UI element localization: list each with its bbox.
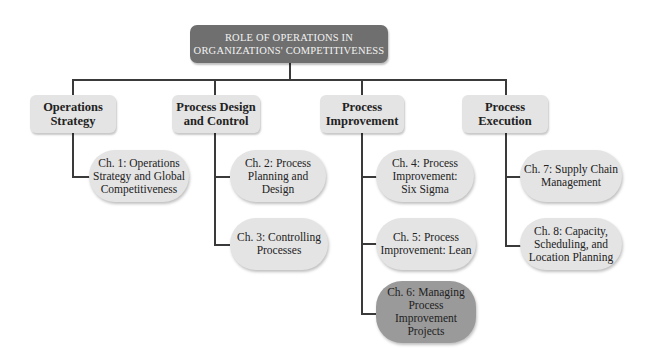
- category-label: Process Execution: [478, 100, 531, 128]
- branch-ch6: [361, 313, 377, 315]
- connector-process-execution: [505, 79, 507, 95]
- category-label: Process Improvement: [326, 100, 399, 128]
- chapter-label: Ch. 8: Capacity, Scheduling, and Locatio…: [529, 225, 614, 264]
- chapter-label: Ch. 5: Process Improvement: Lean: [380, 231, 471, 257]
- chapter-7: Ch. 7: Supply Chain Management: [520, 150, 622, 202]
- chapter-label: Ch. 7: Supply Chain Management: [524, 163, 618, 189]
- trunk-process-execution: [505, 133, 507, 246]
- branch-ch8: [505, 245, 521, 247]
- branch-ch1: [72, 176, 90, 178]
- category-label: Process Design and Control: [176, 100, 255, 128]
- chapter-3: Ch. 3: Controlling Processes: [230, 218, 328, 270]
- chapter-label: Ch. 6: Managing Process Improvement Proj…: [387, 286, 465, 338]
- trunk-process-improvement: [361, 133, 363, 314]
- connector-process-design: [214, 79, 216, 95]
- branch-ch7: [505, 176, 521, 178]
- chapter-4: Ch. 4: Process Improvement: Six Sigma: [376, 150, 474, 202]
- chapter-8: Ch. 8: Capacity, Scheduling, and Locatio…: [520, 218, 622, 270]
- branch-ch4: [361, 176, 377, 178]
- connector-operations-strategy: [72, 79, 74, 95]
- trunk-operations-strategy: [72, 133, 74, 177]
- branch-ch2: [214, 176, 230, 178]
- connector-process-improvement: [361, 79, 363, 95]
- category-process-design-control: Process Design and Control: [172, 95, 260, 133]
- chapter-label: Ch. 4: Process Improvement: Six Sigma: [392, 157, 458, 196]
- chapter-5: Ch. 5: Process Improvement: Lean: [376, 218, 476, 270]
- chapter-label: Ch. 1: Operations Strategy and Global Co…: [93, 157, 185, 196]
- category-label: Operations Strategy: [43, 100, 103, 128]
- chapter-6: Ch. 6: Managing Process Improvement Proj…: [376, 281, 476, 343]
- trunk-process-design: [214, 133, 216, 245]
- category-operations-strategy: Operations Strategy: [30, 95, 116, 133]
- root-title: ROLE OF OPERATIONS IN ORGANIZATIONS' COM…: [194, 31, 385, 57]
- top-horizontal-connector: [72, 79, 506, 81]
- branch-ch5: [361, 243, 377, 245]
- branch-ch3: [214, 244, 230, 246]
- chapter-label: Ch. 2: Process Planning and Design: [245, 157, 311, 196]
- chapter-1: Ch. 1: Operations Strategy and Global Co…: [89, 150, 189, 202]
- root-connector: [289, 63, 291, 80]
- category-process-execution: Process Execution: [462, 95, 548, 133]
- category-process-improvement: Process Improvement: [320, 95, 404, 133]
- chapter-2: Ch. 2: Process Planning and Design: [230, 150, 326, 202]
- chapter-label: Ch. 3: Controlling Processes: [237, 231, 321, 257]
- root-node: ROLE OF OPERATIONS IN ORGANIZATIONS' COM…: [190, 25, 388, 63]
